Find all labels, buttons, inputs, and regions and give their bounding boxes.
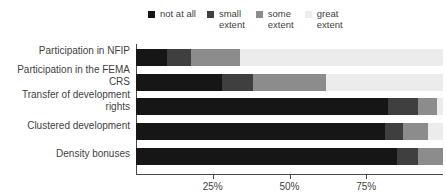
y-axis-label-fema-crs: Participation in the FEMA CRS (0, 64, 130, 87)
y-axis-label-tdr: Transfer of development rights (0, 89, 130, 112)
table-row[interactable] (136, 98, 443, 115)
x-axis-ticklabel-50: 50% (279, 181, 299, 192)
bar-segment-some-extent (418, 148, 443, 165)
x-axis-ticklabel-75: 75% (356, 181, 376, 192)
plot-area: 25% 50% 75% (136, 44, 443, 175)
bar-segment-small-extent (397, 148, 418, 165)
legend-item-some-extent[interactable]: some extent (256, 8, 294, 30)
legend-label-great-extent: great extent (317, 8, 343, 30)
legend-swatch-great-extent (305, 11, 312, 18)
bar-segment-some-extent (253, 74, 327, 91)
bar-segment-small-extent (222, 74, 253, 91)
y-axis-label-nfip: Participation in NFIP (0, 45, 130, 57)
x-axis-left-cap (136, 170, 137, 175)
stacked-bar-chart: not at all small extent some extent grea… (0, 0, 446, 196)
bar-segment-great-extent (240, 49, 443, 66)
bar-segment-some-extent (403, 123, 428, 140)
table-row[interactable] (136, 49, 443, 66)
x-axis-tick-75 (366, 175, 367, 179)
legend-item-small-extent[interactable]: small extent (207, 8, 245, 30)
x-axis-ticklabel-25: 25% (203, 181, 223, 192)
bar-segment-not-at-all (136, 98, 388, 115)
bar-segment-great-extent (326, 74, 443, 91)
legend-label-some-extent: some extent (268, 8, 294, 30)
bar-segment-small-extent (167, 49, 192, 66)
table-row[interactable] (136, 148, 443, 165)
x-axis-tick-25 (213, 175, 214, 179)
legend-swatch-some-extent (256, 11, 263, 18)
chart-legend: not at all small extent some extent grea… (148, 8, 428, 38)
y-axis-label-density: Density bonuses (0, 148, 130, 160)
legend-label-small-extent: small extent (219, 8, 245, 30)
bar-segment-great-extent (428, 123, 443, 140)
bar-segment-not-at-all (136, 123, 385, 140)
x-axis-tick-50 (290, 175, 291, 179)
bar-segment-great-extent (437, 98, 443, 115)
bar-segment-not-at-all (136, 148, 397, 165)
y-axis-label-clustered: Clustered development (0, 120, 130, 132)
bar-segment-small-extent (385, 123, 403, 140)
bar-segment-some-extent (191, 49, 240, 66)
bar-segment-some-extent (418, 98, 436, 115)
bar-segment-not-at-all (136, 74, 222, 91)
legend-item-not-at-all[interactable]: not at all (148, 8, 196, 19)
table-row[interactable] (136, 123, 443, 140)
legend-item-great-extent[interactable]: great extent (305, 8, 343, 30)
y-axis-labels: Participation in NFIP Participation in t… (0, 44, 136, 175)
legend-swatch-small-extent (207, 11, 214, 18)
bar-segment-small-extent (388, 98, 419, 115)
table-row[interactable] (136, 74, 443, 91)
bar-segment-not-at-all (136, 49, 167, 66)
legend-label-not-at-all: not at all (160, 8, 196, 19)
legend-swatch-not-at-all (148, 11, 155, 18)
